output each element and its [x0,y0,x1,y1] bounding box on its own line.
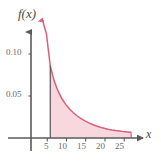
y-tick-label-0-05: 0.05 [6,89,21,99]
y-tick-label-0-10: 0.10 [6,47,21,57]
x-tick-label-15: 15 [77,141,86,151]
x-tick-label-20: 20 [96,141,105,151]
plot-canvas [0,0,161,164]
y-axis-name-label: f(x) [18,6,36,22]
x-tick-label-10: 10 [58,141,67,151]
shaded-area-under-curve [50,66,131,138]
x-tick-label-25: 25 [115,141,124,151]
exponential-density-figure: f(x) x 0.10 0.05 5 10 15 20 25 [0,0,161,164]
x-axis-name-label: x [146,127,151,142]
x-tick-label-5: 5 [44,141,48,151]
